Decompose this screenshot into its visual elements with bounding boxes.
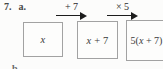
problem-number: 7. (4, 1, 12, 12)
box-5-times-x-plus-7: 5(x + 7) (126, 20, 163, 61)
arrowhead-right-icon (80, 12, 87, 20)
box-x-plus-7-expression: x + 7 (86, 35, 108, 46)
arrow-times-5: × 5 (107, 2, 138, 20)
arrowhead-right-icon (131, 12, 138, 20)
arrow-line (107, 15, 134, 16)
arrow-plus-7: + 7 (56, 2, 87, 20)
worksheet-page: 7.a. + 7 × 5 x x + 7 5(x + 7) b. (0, 0, 163, 69)
next-part-fragment: b. (12, 63, 20, 69)
box-input-x: x (23, 22, 63, 57)
problem-label: 7.a. (4, 1, 26, 12)
arrow-plus-7-label: + 7 (56, 2, 87, 12)
part-label: a. (19, 1, 27, 12)
next-part-label: b. (12, 63, 20, 69)
box-x-plus-7: x + 7 (77, 21, 118, 59)
box-5-times-x-plus-7-expression: 5(x + 7) (131, 35, 163, 46)
arrow-line (56, 15, 83, 16)
box-input-x-expression: x (41, 34, 46, 45)
arrow-times-5-label: × 5 (107, 2, 138, 12)
